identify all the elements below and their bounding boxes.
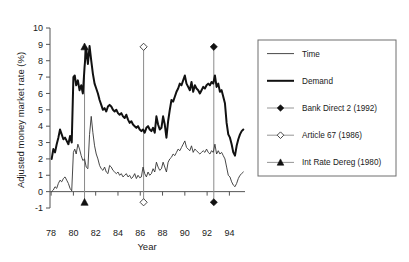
y-tick-label: 6 <box>38 89 43 99</box>
y-tick-label: 8 <box>38 56 43 66</box>
x-tick-label: 82 <box>91 228 101 238</box>
y-tick-label: 3 <box>38 138 43 148</box>
y-tick-label: 0 <box>38 187 43 197</box>
x-tick-label: 86 <box>135 228 145 238</box>
y-tick-label: 1 <box>38 170 43 180</box>
x-tick-label: 80 <box>68 228 78 238</box>
x-tick-label: 92 <box>202 228 212 238</box>
y-axis-title: Adjusted money market rate (%) <box>15 52 26 188</box>
x-tick-label: 78 <box>46 228 56 238</box>
x-tick-label: 88 <box>158 228 168 238</box>
x-axis-title: Year <box>137 241 156 252</box>
legend-label-2: Bank Direct 2 (1992) <box>302 104 377 113</box>
y-tick-label: 9 <box>38 40 43 50</box>
legend-label-4: Int Rate Dereg (1980) <box>302 158 381 167</box>
chart-canvas: Adjusted money market rate (%) Year -101… <box>0 0 409 262</box>
data-series-group <box>52 46 244 192</box>
event-marker-top <box>210 43 217 50</box>
x-axis: 788082848688909294 <box>46 192 245 238</box>
event-marker-top <box>81 43 88 50</box>
y-tick-label: -1 <box>35 203 43 213</box>
event-markers-group <box>81 43 217 206</box>
x-tick-label: 90 <box>180 228 190 238</box>
event-marker-top <box>140 43 147 50</box>
series-line-demand <box>52 46 244 159</box>
legend-label-1: Demand <box>302 77 333 86</box>
y-tick-label: 5 <box>38 105 43 115</box>
x-tick-label: 94 <box>224 228 234 238</box>
event-marker-bottom <box>81 198 88 205</box>
y-axis: -1012345678910 <box>33 23 50 213</box>
y-tick-label: 10 <box>33 23 43 33</box>
chart-legend: TimeDemandBank Direct 2 (1992)Article 67… <box>258 40 396 176</box>
x-axis-title-text: Year <box>137 241 156 252</box>
y-tick-label: 7 <box>38 72 43 82</box>
y-axis-title-text: Adjusted money market rate (%) <box>15 52 26 188</box>
legend-label-0: Time <box>302 50 320 59</box>
event-marker-bottom <box>140 199 147 206</box>
legend-label-3: Article 67 (1986) <box>302 131 362 140</box>
event-lines-group <box>85 47 214 202</box>
event-marker-bottom <box>210 199 217 206</box>
chart-figure: Adjusted money market rate (%) Year -101… <box>0 0 409 262</box>
x-tick-label: 84 <box>113 228 123 238</box>
y-tick-label: 4 <box>38 121 43 131</box>
y-tick-label: 2 <box>38 154 43 164</box>
